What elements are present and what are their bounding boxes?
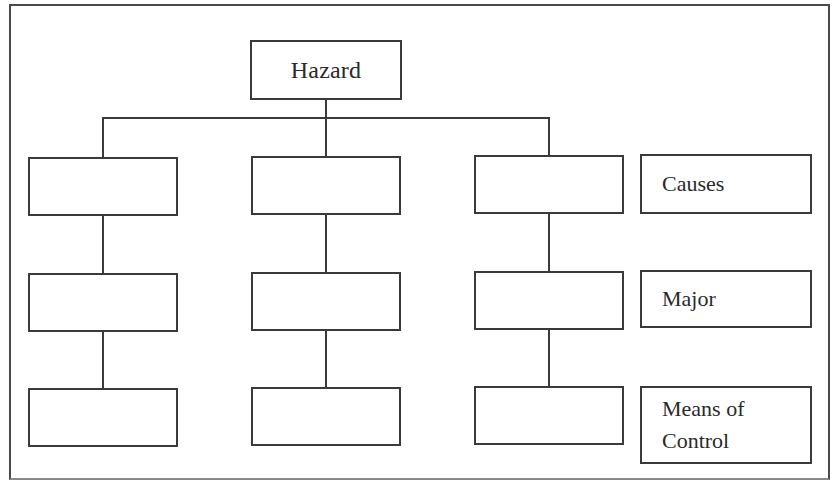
branch-2-link-1 <box>325 215 327 272</box>
means-of-control-label-line2: Control <box>662 425 729 457</box>
hazard-node: Hazard <box>250 40 402 100</box>
row-label-causes: Causes <box>640 154 812 214</box>
branch-3-causes-node <box>474 155 624 214</box>
branch-2-major-node <box>251 272 401 331</box>
branch-1-drop <box>102 117 104 157</box>
branch-1-causes-node <box>28 157 178 216</box>
branch-2-drop <box>325 117 327 156</box>
major-label: Major <box>662 283 716 315</box>
row-label-major: Major <box>640 270 812 328</box>
hazard-label: Hazard <box>291 57 361 84</box>
branch-1-control-node <box>28 388 178 447</box>
branch-1-link-2 <box>102 332 104 388</box>
root-connector <box>325 100 327 118</box>
branch-3-link-2 <box>548 330 550 386</box>
branch-2-link-2 <box>325 331 327 387</box>
branch-3-control-node <box>474 386 624 445</box>
branch-3-drop <box>548 117 550 155</box>
means-of-control-label-line1: Means of <box>662 393 744 425</box>
branch-3-major-node <box>474 271 624 330</box>
branch-3-link-1 <box>548 214 550 271</box>
row-label-means-of-control: Means of Control <box>640 386 812 464</box>
branch-2-control-node <box>251 387 401 446</box>
branch-1-major-node <box>28 273 178 332</box>
branch-1-link-1 <box>102 216 104 273</box>
causes-label: Causes <box>662 168 724 200</box>
branch-2-causes-node <box>251 156 401 215</box>
